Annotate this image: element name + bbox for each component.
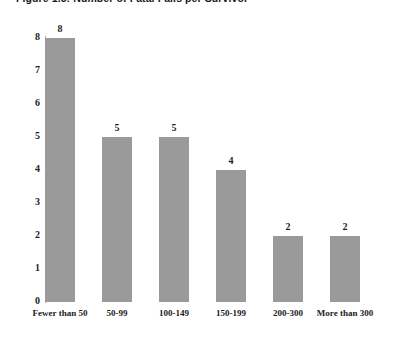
- bar-value-label: 5: [147, 122, 201, 133]
- y-axis-tick-4: 4: [18, 163, 40, 174]
- bar-value-label: 4: [204, 155, 258, 166]
- bar: [45, 38, 75, 302]
- y-axis-tick-labels: 012345678: [0, 0, 40, 339]
- y-axis-tick-2: 2: [18, 229, 40, 240]
- bar: [330, 236, 360, 302]
- bar: [216, 170, 246, 302]
- bar-group: 4: [216, 170, 246, 302]
- bar-chart: 012345678 8Fewer than 50550-995100-14941…: [0, 0, 395, 339]
- y-axis-tick-1: 1: [18, 262, 40, 273]
- bar: [102, 137, 132, 302]
- bar-value-label: 2: [318, 221, 372, 232]
- x-axis-category-label: More than 300: [300, 308, 390, 318]
- bar-group: 5: [159, 137, 189, 302]
- bar: [273, 236, 303, 302]
- bar-group: 2: [330, 236, 360, 302]
- y-axis-tick-0: 0: [18, 295, 40, 306]
- y-axis-tick-3: 3: [18, 196, 40, 207]
- bar-value-label: 8: [33, 23, 87, 34]
- bar-value-label: 2: [261, 221, 315, 232]
- y-axis-tick-5: 5: [18, 130, 40, 141]
- bar-group: 2: [273, 236, 303, 302]
- bar: [159, 137, 189, 302]
- bar-group: 8: [45, 38, 75, 302]
- y-axis-tick-6: 6: [18, 97, 40, 108]
- bar-value-label: 5: [90, 122, 144, 133]
- bar-group: 5: [102, 137, 132, 302]
- y-axis-tick-7: 7: [18, 64, 40, 75]
